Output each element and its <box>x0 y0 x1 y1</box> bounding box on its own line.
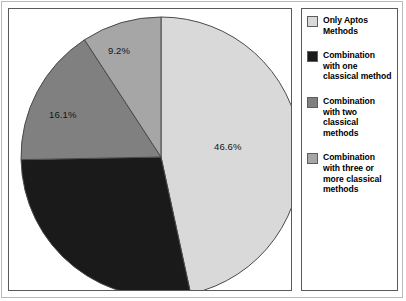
legend-label-two-classical: Combination with two classical methods <box>323 96 393 138</box>
slice-label-only-aptos: 46.6% <box>214 141 241 152</box>
legend-swatch-one-classical <box>307 51 318 62</box>
plot-area: 46.6% 16.1% 9.2% <box>8 8 292 291</box>
pie-svg <box>8 8 292 291</box>
legend-label-one-classical: Combination with one classical method <box>323 50 393 82</box>
legend-item-two-classical[interactable]: Combination with two classical methods <box>307 96 393 138</box>
legend-swatch-two-classical <box>307 97 318 108</box>
legend-label-three-or-more-classical: Combination with three or more classical… <box>323 152 393 194</box>
pie-slice-one-classical[interactable] <box>21 157 191 291</box>
legend-item-one-classical[interactable]: Combination with one classical method <box>307 50 393 82</box>
legend-swatch-only-aptos <box>307 16 318 27</box>
pie-slices <box>21 17 292 291</box>
legend-item-only-aptos[interactable]: Only Aptos Methods <box>307 15 393 36</box>
legend: Only Aptos Methods Combination with one … <box>301 8 398 291</box>
legend-item-three-or-more-classical[interactable]: Combination with three or more classical… <box>307 152 393 194</box>
slice-label-three-or-more-classical: 9.2% <box>108 45 130 56</box>
slice-label-two-classical: 16.1% <box>49 109 76 120</box>
legend-label-only-aptos: Only Aptos Methods <box>323 15 393 36</box>
pie-chart-figure: 46.6% 16.1% 9.2% Only Aptos Methods Comb… <box>0 0 406 301</box>
legend-swatch-three-or-more-classical <box>307 153 318 164</box>
